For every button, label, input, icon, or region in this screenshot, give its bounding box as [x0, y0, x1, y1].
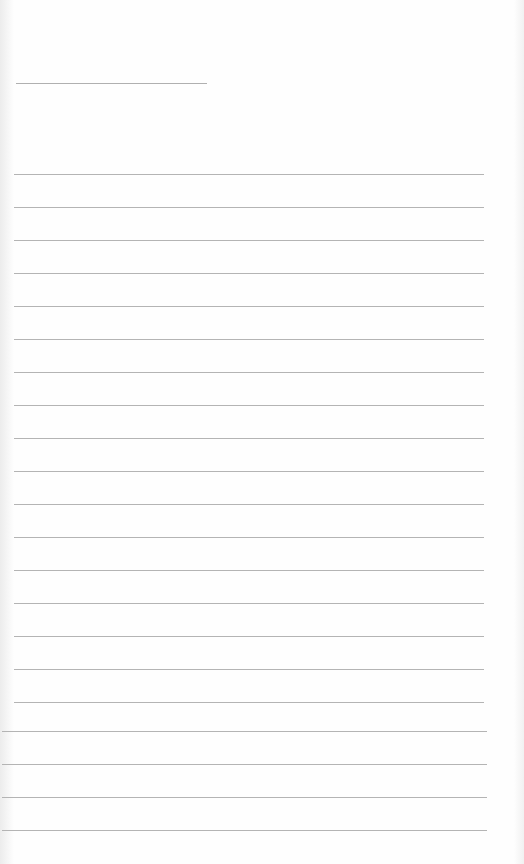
ruled-line: [14, 273, 484, 274]
ruled-line: [2, 797, 487, 798]
ruled-line: [14, 669, 484, 670]
ruled-line: [14, 207, 484, 208]
ruled-line: [14, 702, 484, 703]
page-left-edge-shadow: [0, 0, 14, 864]
ruled-line: [14, 636, 484, 637]
ruled-line: [14, 372, 484, 373]
ruled-line: [14, 339, 484, 340]
ruled-line: [14, 504, 484, 505]
notebook-page: [0, 0, 524, 864]
ruled-line: [14, 240, 484, 241]
header-line: [16, 83, 207, 84]
ruled-line: [14, 570, 484, 571]
ruled-line: [14, 438, 484, 439]
ruled-line: [2, 731, 487, 732]
ruled-line: [2, 764, 487, 765]
ruled-line: [2, 830, 487, 831]
ruled-line: [14, 603, 484, 604]
ruled-line: [14, 306, 484, 307]
ruled-line: [14, 471, 484, 472]
ruled-line: [14, 174, 484, 175]
page-right-edge-shadow: [514, 0, 524, 864]
ruled-line: [14, 537, 484, 538]
ruled-line: [14, 405, 484, 406]
